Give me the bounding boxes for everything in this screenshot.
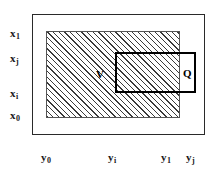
axis-label-x1-base: x: [10, 27, 16, 39]
region-q-label: Q: [183, 68, 192, 79]
axis-label-yi-base: y: [108, 151, 114, 163]
axis-label-y1: y1: [161, 152, 171, 163]
axis-label-xj-base: x: [10, 52, 16, 64]
axis-label-yi: yi: [108, 152, 116, 163]
axis-label-y1-subscript: 1: [167, 156, 171, 165]
axis-label-y1-base: y: [161, 151, 167, 163]
axis-label-y0: y0: [41, 152, 51, 163]
axis-label-y0-subscript: 0: [47, 156, 51, 165]
axis-label-x1: x1: [10, 28, 20, 39]
axis-label-yj-base: y: [186, 151, 192, 163]
axis-label-x0-subscript: 0: [16, 114, 20, 123]
axis-label-yj-subscript: j: [192, 156, 195, 165]
axis-label-yi-subscript: i: [114, 156, 116, 165]
axis-label-y0-base: y: [41, 151, 47, 163]
region-diagram: V Q x1 xj xi x0 y0 yi y1 yj: [0, 0, 214, 174]
region-v-label: V: [96, 69, 104, 80]
axis-label-yj: yj: [186, 152, 194, 163]
axis-label-xj: xj: [10, 53, 18, 64]
axis-label-x1-subscript: 1: [16, 32, 20, 41]
axis-label-xi-subscript: i: [16, 92, 18, 101]
axis-label-xi-base: x: [10, 87, 16, 99]
axis-label-xi: xi: [10, 88, 18, 99]
axis-label-x0: x0: [10, 110, 20, 121]
axis-label-x0-base: x: [10, 109, 16, 121]
axis-label-xj-subscript: j: [16, 57, 19, 66]
